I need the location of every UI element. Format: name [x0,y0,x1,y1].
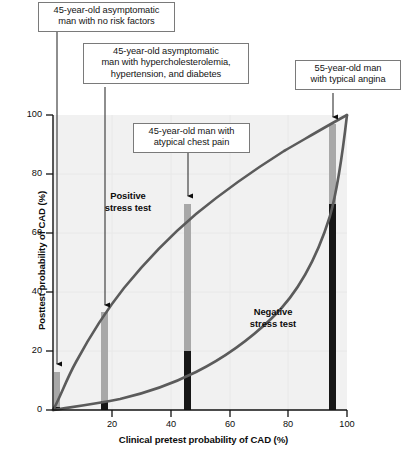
x-tick-label-80: 80 [273,419,303,429]
bar-negative-case-4 [329,204,336,410]
callout-box-case-2: 45-year-old asymptomatic man with hyperc… [83,43,249,84]
y-tick-label-0: 0 [16,404,42,414]
callout-box-case-3: 45-year-old man with atypical chest pain [133,123,250,153]
callout-1-line-2: man with no risk factors [43,16,170,27]
x-tick-label-100: 100 [332,419,362,429]
bar-negative-case-3 [184,351,191,410]
callout-box-case-1: 45-year-old asymptomatic man with no ris… [38,2,175,32]
case-bars-4 [329,124,336,410]
callout-3-line-2: atypical chest pain [138,137,245,148]
callout-4-line-2: with typical angina [300,74,396,85]
y-axis-title: Posttest probability of CAD (%) [36,141,47,381]
y-tick-label-100: 100 [16,109,42,119]
callout-2-line-3: hypertension, and diabetes [88,69,244,80]
callout-1-line-1: 45-year-old asymptomatic [43,5,170,16]
plot-background [53,115,347,410]
curve-label-positive-stress-test: Positive stress test [85,190,171,213]
nomogram-figure: 45-year-old asymptomatic man with no ris… [0,0,407,456]
x-axis-title: Clinical pretest probability of CAD (%) [0,434,407,445]
callout-2-line-2: man with hypercholesterolemia, [88,57,244,68]
callout-4-line-1: 55-year-old man [300,63,396,74]
x-tick-label-60: 60 [215,419,245,429]
case-bars-3 [184,204,191,410]
positive-label-line-1: Positive [85,190,171,202]
bar-positive-case-2 [101,312,108,410]
y-axis-ticks [46,115,53,410]
curve-label-negative-stress-test: Negative stress test [230,306,316,329]
x-tick-label-40: 40 [156,419,186,429]
callout-2-line-1: 45-year-old asymptomatic [88,46,244,57]
negative-label-line-2: stress test [230,318,316,330]
positive-label-line-2: stress test [85,202,171,214]
callout-box-case-4: 55-year-old man with typical angina [295,60,401,90]
negative-label-line-1: Negative [230,306,316,318]
x-axis-ticks [112,410,347,417]
case-bars-2 [101,312,108,410]
x-tick-label-20: 20 [97,419,127,429]
callout-3-line-1: 45-year-old man with [138,126,245,137]
